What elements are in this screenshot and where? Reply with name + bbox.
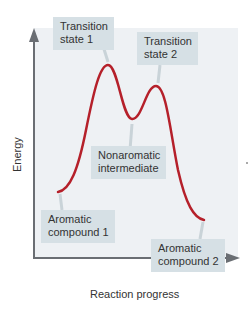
label-transition-state-2: Transition state 2 [137, 32, 198, 65]
x-axis-arrow-icon [226, 253, 240, 263]
label-aromatic-compound-1: Aromatic compound 1 [41, 210, 115, 243]
leader-compound1 [60, 194, 62, 210]
label-nonaromatic-intermediate: Nonaromatic intermediate [91, 146, 166, 179]
y-axis-label: Energy [11, 137, 23, 172]
leader-compound2 [200, 222, 203, 239]
label-aromatic-compound-2: Aromatic compound 2 [151, 239, 225, 272]
leader-ts1 [104, 49, 108, 62]
label-transition-state-1: Transition state 1 [53, 17, 114, 50]
x-axis-label: Reaction progress [90, 288, 179, 300]
leader-ts2 [158, 65, 160, 83]
y-axis-arrow-icon [29, 28, 39, 42]
